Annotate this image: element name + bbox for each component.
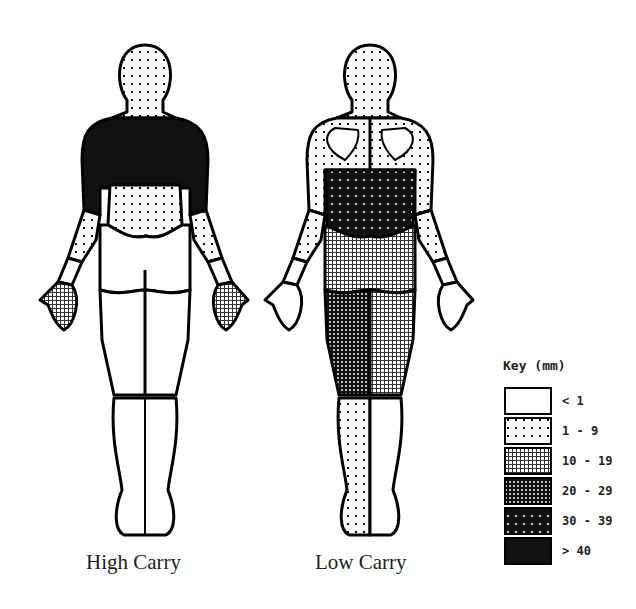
high-right-upper-arm xyxy=(190,210,222,262)
key-swatch-gt40 xyxy=(505,538,551,564)
key-title: Key (mm) xyxy=(503,358,566,373)
body-map-diagram xyxy=(0,0,636,609)
key-swatches xyxy=(505,388,551,564)
high-head xyxy=(112,45,176,118)
key-swatch-10-19 xyxy=(505,448,551,474)
figure-high-carry xyxy=(40,45,248,535)
high-left-hand xyxy=(40,282,77,330)
key-label: > 40 xyxy=(562,544,591,558)
low-right-upper-arm xyxy=(415,210,447,262)
key-label: 10 - 19 xyxy=(562,454,613,468)
low-left-upper-arm xyxy=(293,210,325,262)
low-right-hand xyxy=(438,282,473,330)
low-right-lower-leg xyxy=(370,398,402,535)
high-lower-back xyxy=(108,185,182,237)
key-label: 1 - 9 xyxy=(562,424,598,438)
key-swatch-lt1 xyxy=(505,388,551,414)
low-right-forearm xyxy=(433,258,457,285)
low-lower-back xyxy=(325,170,415,237)
caption-low-carry: Low Carry xyxy=(315,550,407,575)
low-left-thigh xyxy=(325,290,370,395)
low-left-forearm xyxy=(283,258,307,285)
high-left-forearm xyxy=(58,258,82,285)
key-swatch-1-9 xyxy=(505,418,551,444)
high-right-hand xyxy=(213,282,248,330)
high-right-forearm xyxy=(208,258,232,285)
key-swatch-30-39 xyxy=(505,508,551,534)
low-left-hand xyxy=(265,282,302,330)
key-label: < 1 xyxy=(562,394,584,408)
key-label: 30 - 39 xyxy=(562,514,613,528)
low-right-thigh xyxy=(370,290,415,395)
key-swatch-20-29 xyxy=(505,478,551,504)
figure-low-carry xyxy=(265,45,473,535)
high-left-upper-arm xyxy=(68,210,100,262)
caption-high-carry: High Carry xyxy=(86,550,181,575)
key-label: 20 - 29 xyxy=(562,484,613,498)
low-buttocks xyxy=(325,226,415,293)
low-head xyxy=(337,45,401,118)
low-left-lower-leg xyxy=(338,398,370,535)
